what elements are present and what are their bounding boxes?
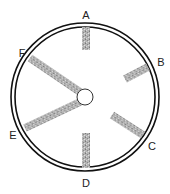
label-e: E (9, 129, 16, 141)
label-f: F (19, 47, 26, 59)
hub-circle (77, 89, 93, 105)
spoke-e (23, 98, 81, 131)
label-d: D (82, 177, 90, 189)
label-c: C (148, 140, 156, 152)
label-a: A (82, 9, 90, 21)
spoke-a (82, 27, 90, 50)
spoke-b (123, 63, 150, 82)
spoke-f (28, 55, 82, 96)
spoke-c (110, 112, 145, 139)
wheel-diagram: ABCDEF (0, 0, 170, 194)
label-b: B (157, 56, 164, 68)
spoke-d (82, 133, 90, 168)
